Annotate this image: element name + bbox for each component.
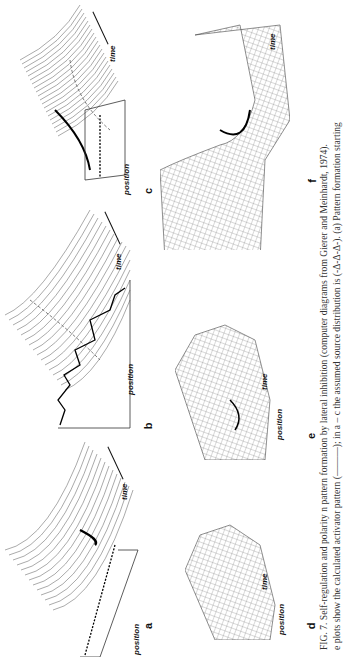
axis-label-time: time bbox=[114, 254, 123, 270]
axis-label-position: position bbox=[126, 364, 135, 395]
panel-f: f time bbox=[160, 20, 290, 250]
axis-label-position: position bbox=[277, 604, 286, 635]
axis-label-time: time bbox=[108, 46, 117, 62]
panel-c-plot bbox=[0, 430, 140, 657]
panel-a: time position bbox=[0, 0, 130, 200]
panel-label: f bbox=[306, 179, 318, 183]
panel-label: c bbox=[142, 188, 154, 194]
panel-e: time position bbox=[175, 320, 285, 460]
figure-caption: FIG. 7. Self-regulation and polarity n p… bbox=[318, 0, 343, 650]
panel-e-plot bbox=[175, 320, 285, 460]
axis-label-position: position bbox=[275, 409, 284, 440]
panel-c: time position bbox=[0, 430, 140, 657]
axis-label-time: time bbox=[260, 374, 269, 390]
panel-d-plot bbox=[185, 520, 285, 640]
panel-b: time position bbox=[0, 200, 140, 430]
panel-label: e bbox=[305, 433, 317, 439]
panel-label: b bbox=[142, 423, 154, 430]
axis-label-time: time bbox=[120, 484, 129, 500]
panel-d: time position bbox=[185, 520, 285, 640]
panel-b-plot bbox=[0, 200, 140, 430]
panel-label: d bbox=[305, 623, 317, 630]
panel-a-plot bbox=[0, 0, 130, 200]
panel-label: a bbox=[142, 623, 154, 629]
axis-label-position: position bbox=[122, 164, 131, 195]
axis-label-time: time bbox=[268, 34, 277, 50]
panel-f-plot bbox=[160, 20, 290, 250]
caption-line-2: e plots show the calculated activator pa… bbox=[331, 0, 343, 650]
axis-label-position: position bbox=[132, 624, 141, 655]
caption-line-1: FIG. 7. Self-regulation and polarity n p… bbox=[318, 0, 331, 650]
axis-label-time: time bbox=[260, 574, 269, 590]
